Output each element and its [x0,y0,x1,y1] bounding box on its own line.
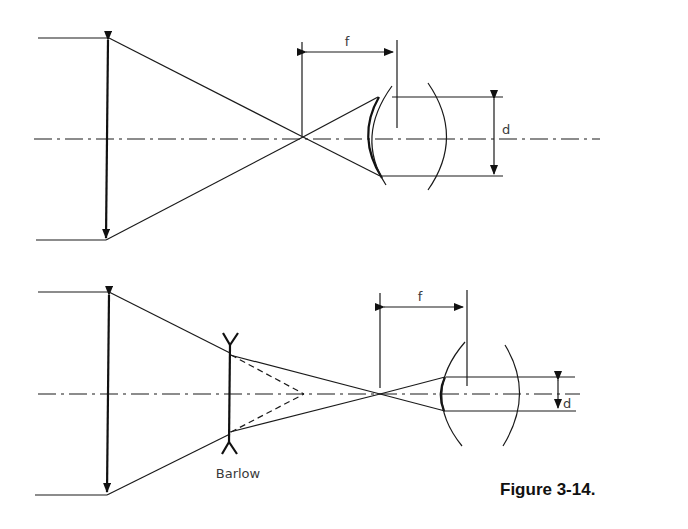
barlow-label: Barlow [216,466,261,481]
bottom-diagram: Barlow f d [35,289,580,495]
objective-lens [106,40,108,238]
focal-label: f [345,34,350,49]
top-diagram: f d [34,34,600,240]
objective-lens [107,295,109,492]
focal-label: f [418,289,423,304]
converging-ray-top [109,38,303,137]
converging-ray-bottom [106,137,303,240]
diverging-ray-top [303,97,378,137]
diameter-label: d [563,396,571,411]
eyepiece-front-surface [368,97,382,178]
figure-caption: Figure 3-14. [500,480,595,499]
barlow-lens [229,345,230,442]
diameter-label: d [502,122,510,137]
optical-diagram: f d Barlow f [0,0,688,529]
eyepiece-back-surface [428,83,447,190]
